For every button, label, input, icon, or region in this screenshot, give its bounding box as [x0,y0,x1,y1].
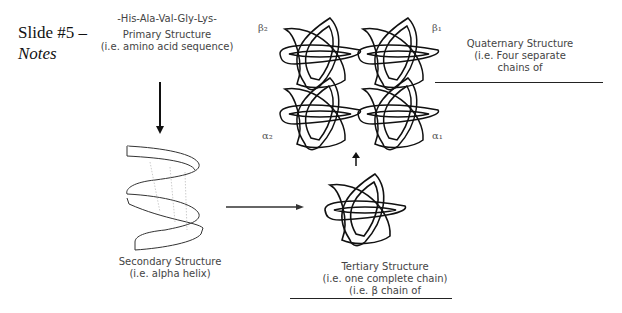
arrow-up-icon [352,152,360,166]
quaternary-tetramer-icon [275,14,450,149]
secondary-structure-desc: (i.e. alpha helix) [100,267,240,280]
arrow-down-icon [155,80,165,136]
slide-title-notes: Notes [18,43,87,64]
slide-title-number: Slide #5 – [18,22,87,43]
primary-structure-desc: (i.e. amino acid sequence) [97,40,237,53]
quaternary-answer-blank [435,82,603,83]
subunit-alpha2-label: α₂ [262,130,273,141]
primary-sequence: -His-Ala-Val-Gly-Lys- [97,12,237,25]
subunit-beta2-label: β₂ [258,22,268,33]
tertiary-chain-icon [320,170,410,250]
alpha-helix-icon [125,142,215,252]
tertiary-answer-blank [290,298,452,299]
tertiary-structure-desc2: (i.e. β chain of [290,284,480,297]
quaternary-structure-desc2: chains of [455,61,585,74]
slide-title: Slide #5 – Notes [18,22,87,64]
arrow-right-icon [226,202,306,212]
subunit-alpha1-label: α₁ [432,130,443,141]
subunit-beta1-label: β₁ [432,22,442,33]
